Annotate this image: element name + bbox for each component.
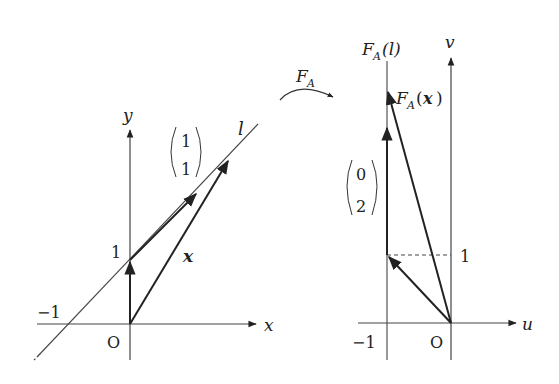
origin-label: O [107, 333, 120, 352]
svg-text:A: A [406, 99, 415, 112]
svg-text:A: A [306, 77, 315, 90]
vector-x-label: x [182, 246, 194, 266]
column-vector-1-1: 1 1 [171, 127, 201, 179]
svg-text:x: x [422, 89, 433, 108]
svg-text:(: ( [416, 88, 423, 108]
v-axis-label: v [445, 32, 455, 52]
u-axis-label: u [522, 314, 533, 334]
svg-text:1: 1 [181, 160, 191, 179]
svg-text:0: 0 [356, 165, 366, 184]
linear-map-diagram: y x O 1 −1 l x 1 1 F A [0, 0, 559, 384]
line-l [38, 124, 258, 356]
line-l-label: l [238, 118, 244, 139]
svg-text:(l): (l) [382, 39, 401, 59]
svg-text:1: 1 [181, 132, 191, 151]
svg-text:A: A [372, 50, 381, 63]
curved-arrow-icon [280, 89, 333, 100]
left-coordinate-plane: y x O 1 −1 l x 1 1 [34, 105, 274, 360]
tick-u-neg1: −1 [352, 333, 376, 352]
svg-text:): ) [436, 88, 443, 108]
origin-label-right: O [430, 333, 443, 352]
column-vector-0-2: 0 2 [347, 160, 377, 216]
right-coordinate-plane: v u O −1 1 F A (l) F A ( x ) 0 2 [347, 32, 533, 360]
image-vector-label: F A ( x ) [395, 88, 443, 112]
image-line-label: F A (l) [361, 39, 401, 63]
tick-x-neg1: −1 [37, 303, 61, 322]
x-axis-label: x [264, 315, 274, 335]
transform-arrow: F A [280, 66, 333, 100]
vector-x [130, 161, 228, 324]
svg-text:2: 2 [356, 197, 366, 216]
tick-v-1: 1 [460, 247, 470, 266]
y-axis-label: y [122, 105, 133, 125]
tick-y-1: 1 [111, 243, 121, 262]
